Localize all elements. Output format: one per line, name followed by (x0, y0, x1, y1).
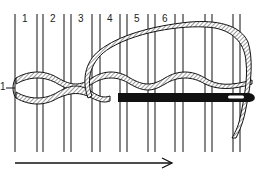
warp-label-5: 5 (134, 14, 140, 24)
warp-label-6: 6 (162, 14, 168, 24)
twining-diagram: 1 2 3 4 5 6 1 (0, 0, 271, 183)
warp-label-2: 2 (50, 14, 56, 24)
direction-arrow (15, 158, 172, 168)
needle (118, 93, 255, 102)
warp-label-4: 4 (107, 14, 113, 24)
warp-label-3: 3 (78, 14, 84, 24)
diagram-art (0, 0, 271, 183)
warp-label-1: 1 (22, 14, 28, 24)
row-label: 1 (0, 81, 6, 92)
